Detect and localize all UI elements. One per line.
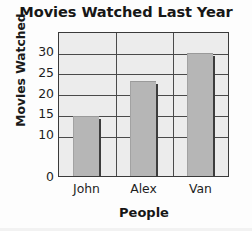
x-axis-tick-labels: JohnAlexVan [58, 181, 229, 201]
y-tick-label: 0 [26, 171, 54, 183]
x-axis-title: People [58, 205, 230, 220]
y-axis-tick-labels: 01015202530 [26, 0, 54, 231]
scan-edge-artifact [0, 228, 252, 231]
y-tick-label: 10 [26, 129, 54, 141]
y-tick-label: 25 [26, 67, 54, 79]
bar-chart-figure: Movies Watched Last Year Movies Watched … [0, 0, 252, 231]
bar-van [187, 53, 213, 176]
x-tick-label: Alex [115, 181, 172, 196]
category-divider [116, 33, 117, 176]
category-divider [173, 33, 174, 176]
bar-john [73, 116, 99, 176]
plot-area [58, 32, 229, 177]
y-tick-label: 15 [26, 108, 54, 120]
y-tick-label: 30 [26, 46, 54, 58]
y-tick-label: 20 [26, 88, 54, 100]
x-tick-label: Van [172, 181, 229, 196]
bar-alex [130, 81, 156, 176]
x-tick-label: John [58, 181, 115, 196]
